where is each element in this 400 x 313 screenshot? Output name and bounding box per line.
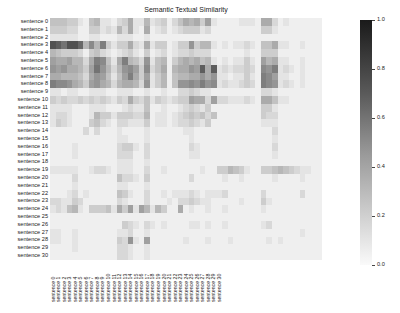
- colorbar-tick: [372, 118, 375, 119]
- colorbar-tick-label: 0.4: [377, 164, 385, 170]
- y-tick-label: sentence 26: [18, 222, 48, 228]
- y-tick-label: sentence 29: [18, 245, 48, 251]
- y-tick-label: sentence 30: [18, 253, 48, 259]
- colorbar: [360, 20, 372, 265]
- y-tick-label: sentence 0: [21, 19, 48, 25]
- y-tick-label: sentence 28: [18, 237, 48, 243]
- heatmap-cell: [316, 252, 322, 260]
- y-tick-label: sentence 21: [18, 183, 48, 189]
- heatmap-grid: [50, 18, 322, 260]
- colorbar-tick-label: 0.6: [377, 115, 385, 121]
- y-tick-label: sentence 9: [21, 89, 48, 95]
- y-tick-label: sentence 23: [18, 198, 48, 204]
- y-tick-label: sentence 16: [18, 144, 48, 150]
- y-tick-label: sentence 4: [21, 50, 48, 56]
- colorbar-tick-label: 0.8: [377, 66, 385, 72]
- x-tick-label: sentence 30: [217, 274, 222, 302]
- chart-title: Semantic Textual Similarity: [50, 6, 322, 13]
- y-tick-label: sentence 19: [18, 167, 48, 173]
- y-tick-label: sentence 5: [21, 58, 48, 64]
- y-tick-label: sentence 1: [21, 27, 48, 33]
- colorbar-tick: [372, 167, 375, 168]
- colorbar-tick-label: 1.0: [377, 17, 385, 23]
- y-tick-label: sentence 17: [18, 152, 48, 158]
- y-tick-label: sentence 3: [21, 42, 48, 48]
- colorbar-tick-label: 0.2: [377, 213, 385, 219]
- y-tick-label: sentence 12: [18, 113, 48, 119]
- y-axis-labels: sentence 0sentence 1sentence 2sentence 3…: [0, 18, 48, 260]
- y-tick-label: sentence 18: [18, 159, 48, 165]
- y-tick-label: sentence 24: [18, 206, 48, 212]
- colorbar-tick: [372, 265, 375, 266]
- y-tick-label: sentence 13: [18, 120, 48, 126]
- y-tick-label: sentence 2: [21, 35, 48, 41]
- x-axis-labels: sentence 0sentence 1sentence 2sentence 3…: [50, 262, 230, 312]
- y-tick-label: sentence 10: [18, 97, 48, 103]
- y-tick-label: sentence 14: [18, 128, 48, 134]
- y-tick-label: sentence 6: [21, 66, 48, 72]
- colorbar-tick: [372, 216, 375, 217]
- y-tick-label: sentence 7: [21, 74, 48, 80]
- colorbar-tick: [372, 20, 375, 21]
- colorbar-tick: [372, 69, 375, 70]
- y-tick-label: sentence 15: [18, 136, 48, 142]
- y-tick-label: sentence 8: [21, 81, 48, 87]
- y-tick-label: sentence 22: [18, 191, 48, 197]
- colorbar-tick-label: 0.0: [377, 262, 385, 268]
- y-tick-label: sentence 27: [18, 230, 48, 236]
- y-tick-label: sentence 20: [18, 175, 48, 181]
- y-tick-label: sentence 11: [18, 105, 48, 111]
- y-tick-label: sentence 25: [18, 214, 48, 220]
